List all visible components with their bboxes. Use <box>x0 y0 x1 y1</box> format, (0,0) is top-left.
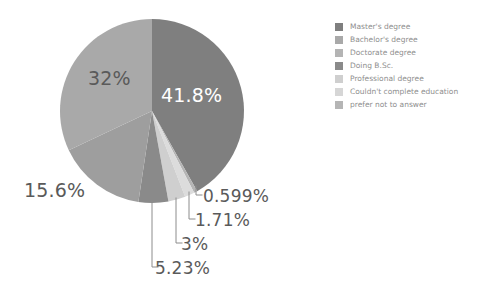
legend-swatch-icon <box>335 23 343 31</box>
chart-legend: Master's degree Bachelor's degree Doctor… <box>335 20 487 111</box>
legend-label: Bachelor's degree <box>350 33 418 46</box>
legend-swatch-icon <box>335 88 343 96</box>
legend-label: Professional degree <box>350 72 424 85</box>
legend-item-professional-degree[interactable]: Professional degree <box>335 72 487 85</box>
legend-swatch-icon <box>335 36 343 44</box>
pie-chart: 41.8% 32% 15.6% 0.599% 1.71% 3% 5.23% Ma… <box>0 0 492 287</box>
legend-item-bachelors-degree[interactable]: Bachelor's degree <box>335 33 487 46</box>
legend-label: Doing B.Sc. <box>350 59 393 72</box>
slice-value-professional-degree: 3% <box>181 234 208 254</box>
legend-label: Master's degree <box>350 20 410 33</box>
slice-value-masters: 41.8% <box>161 84 222 106</box>
legend-swatch-icon <box>335 49 343 57</box>
slice-value-prefer-not-to-answer: 0.599% <box>203 186 269 206</box>
legend-label: Couldn't complete education <box>350 85 458 98</box>
legend-swatch-icon <box>335 62 343 70</box>
legend-item-couldnt-complete-education[interactable]: Couldn't complete education <box>335 85 487 98</box>
legend-label: prefer not to answer <box>350 98 427 111</box>
slice-value-doctorate: 15.6% <box>24 179 85 201</box>
slice-value-couldnt-complete-education: 1.71% <box>195 210 250 230</box>
legend-swatch-icon <box>335 75 343 83</box>
legend-item-doctorate-degree[interactable]: Doctorate degree <box>335 46 487 59</box>
legend-item-doing-bsc[interactable]: Doing B.Sc. <box>335 59 487 72</box>
pie-slices <box>60 19 244 203</box>
slice-value-doing-bsc: 5.23% <box>155 258 210 278</box>
slice-value-bachelors: 32% <box>88 67 131 89</box>
legend-swatch-icon <box>335 101 343 109</box>
legend-label: Doctorate degree <box>350 46 416 59</box>
legend-item-masters-degree[interactable]: Master's degree <box>335 20 487 33</box>
legend-item-prefer-not-to-answer[interactable]: prefer not to answer <box>335 98 487 111</box>
